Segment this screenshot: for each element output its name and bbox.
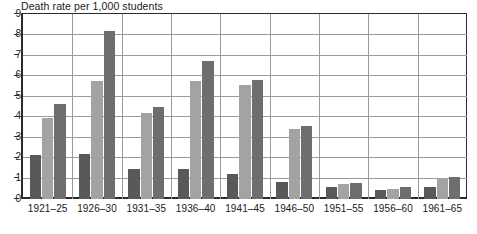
y-axis: 0123456789 [0,13,21,199]
bar-series-1-1941-45 [227,174,239,199]
bar-series-2-1931-35 [141,113,153,199]
bar-group-1936-40 [178,14,214,199]
x-tick-label-1921-25: 1921–25 [28,203,68,214]
y-tick-mark-6 [14,75,19,76]
y-tick-mark-5 [14,95,19,96]
bar-series-1-1951-55 [326,187,338,199]
y-tick-mark-8 [14,34,19,35]
bar-series-1-1931-35 [128,169,140,199]
gridline-x-2 [122,14,123,199]
bar-series-1-1936-40 [178,169,190,199]
bar-series-3-1936-40 [202,61,214,199]
bar-series-3-1921-25 [54,104,66,199]
bar-series-2-1946-50 [289,129,301,199]
chart-title: Death rate per 1,000 students [21,0,163,13]
bar-group-1946-50 [276,14,312,199]
bar-series-3-1941-45 [252,80,264,199]
y-tick-mark-3 [14,136,19,137]
gridline-x-1 [72,14,73,199]
bar-group-1956-60 [375,14,411,199]
y-tick-mark-2 [14,157,19,158]
gridline-x-7 [368,14,369,199]
bar-series-1-1956-60 [375,190,387,199]
x-tick-label-1956-60: 1956–60 [373,203,413,214]
chart-container: Death rate per 1,000 students 0123456789… [0,0,477,234]
x-tick-label-1936-40: 1936–40 [176,203,216,214]
gridline-x-3 [171,14,172,199]
y-tick-mark-1 [14,177,19,178]
y-tick-mark-9 [14,13,19,14]
bar-series-3-1951-55 [350,183,362,199]
bar-series-1-1946-50 [276,182,288,199]
bar-series-2-1921-25 [42,118,54,199]
bar-series-3-1931-35 [153,107,165,200]
bar-series-2-1951-55 [338,184,350,199]
bar-series-1-1921-25 [30,155,42,199]
y-tick-mark-0 [14,198,19,199]
gridline-x-5 [270,14,271,199]
x-tick-label-1951-55: 1951–55 [324,203,364,214]
bar-series-3-1956-60 [400,187,412,199]
x-tick-label-1946-50: 1946–50 [275,203,315,214]
bar-series-3-1946-50 [301,126,313,199]
bar-series-2-1926-30 [91,81,103,199]
gridline-x-6 [319,14,320,199]
x-tick-label-1931-35: 1931–35 [127,203,167,214]
bar-series-2-1941-45 [239,85,251,199]
bar-series-2-1961-65 [437,178,449,199]
bar-group-1941-45 [227,14,263,199]
gridline-x-8 [418,14,419,199]
x-axis: 1921–251926–301931–351936–401941–451946–… [23,203,467,223]
bar-series-3-1961-65 [449,177,461,199]
bar-group-1921-25 [30,14,66,199]
bar-series-1-1926-30 [79,154,91,199]
x-tick-label-1926-30: 1926–30 [77,203,117,214]
bar-group-1926-30 [79,14,115,199]
plot-area [23,14,467,199]
x-tick-label-1961-65: 1961–65 [423,203,463,214]
bar-group-1961-65 [424,14,460,199]
x-tick-label-1941-45: 1941–45 [225,203,265,214]
bar-series-3-1926-30 [104,31,116,199]
y-tick-mark-7 [14,54,19,55]
gridline-x-4 [220,14,221,199]
bar-series-2-1936-40 [190,81,202,199]
bar-series-1-1961-65 [424,187,436,199]
bar-group-1931-35 [128,14,164,199]
bar-group-1951-55 [326,14,362,199]
y-tick-mark-4 [14,116,19,117]
bar-series-2-1956-60 [387,189,399,199]
